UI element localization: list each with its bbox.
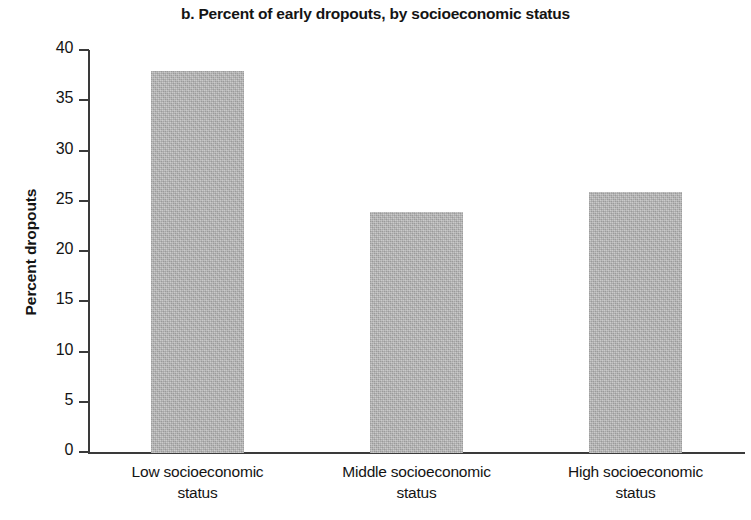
plot-area [88,50,745,453]
bar-1 [370,212,463,453]
y-axis-tick-label: 20 [20,240,73,258]
y-axis-tick-label: 15 [20,290,73,308]
bar-2 [589,192,682,453]
x-axis-label-line2: status [83,483,313,504]
bar-0 [151,71,244,453]
y-axis-tick-label: 10 [20,341,73,359]
x-axis-label-0: Low socioeconomicstatus [83,462,313,503]
y-axis-tick-label: 30 [20,140,73,158]
y-axis-tick-label: 40 [20,39,73,57]
y-axis-tick-label: 5 [20,391,73,409]
y-axis-tick-label: 25 [20,190,73,208]
y-axis-tick-label: 0 [20,441,73,459]
x-axis-label-line1: High socioeconomic [521,462,751,483]
y-axis-tick-label: 35 [20,89,73,107]
x-axis-label-1: Middle socioeconomicstatus [302,462,532,503]
bar-chart-figure: b. Percent of early dropouts, by socioec… [0,0,751,520]
x-axis-label-line2: status [521,483,751,504]
x-axis-label-line2: status [302,483,532,504]
x-axis-label-line1: Middle socioeconomic [302,462,532,483]
x-axis-label-line1: Low socioeconomic [83,462,313,483]
chart-title: b. Percent of early dropouts, by socioec… [0,5,751,23]
x-axis-label-2: High socioeconomicstatus [521,462,751,503]
